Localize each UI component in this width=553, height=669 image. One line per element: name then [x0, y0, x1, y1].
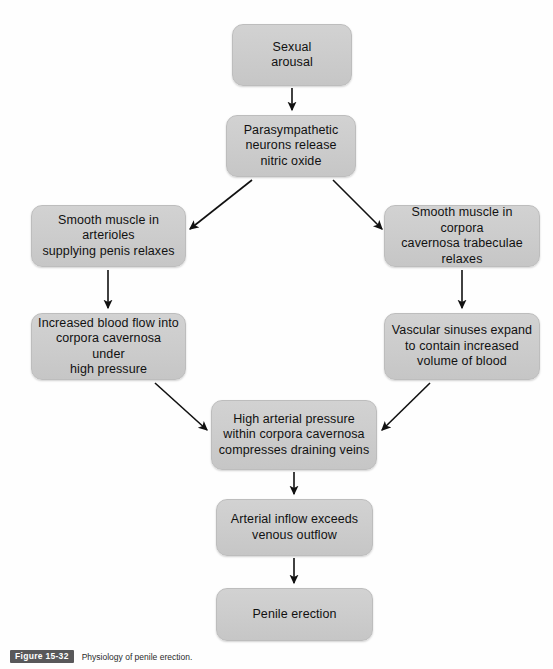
edge-parasympathetic-to-smooth-arterioles: [190, 180, 252, 229]
node-arterial-inflow[interactable]: Arterial inflow exceeds venous outflow: [216, 499, 373, 556]
node-label: Arterial inflow exceeds venous outflow: [231, 512, 358, 543]
node-label: Parasympathetic neurons release nitric o…: [244, 123, 339, 170]
figure-number-badge: Figure 15-32: [10, 650, 74, 663]
node-sexual-arousal[interactable]: Sexual arousal: [232, 24, 352, 86]
node-parasympathetic[interactable]: Parasympathetic neurons release nitric o…: [226, 115, 356, 177]
node-smooth-muscle-trabeculae[interactable]: Smooth muscle in corpora cavernosa trabe…: [384, 205, 540, 267]
node-vascular-sinuses[interactable]: Vascular sinuses expand to contain incre…: [384, 313, 540, 380]
node-label: Smooth muscle in corpora cavernosa trabe…: [391, 205, 533, 267]
figure-caption: Figure 15-32 Physiology of penile erecti…: [10, 650, 192, 663]
node-penile-erection[interactable]: Penile erection: [216, 588, 373, 641]
figure-container: Sexual arousal Parasympathetic neurons r…: [0, 0, 553, 669]
figure-caption-text: Physiology of penile erection.: [82, 652, 193, 662]
node-increased-blood-flow[interactable]: Increased blood flow into corpora cavern…: [31, 313, 186, 380]
edge-increased-flow-to-high-pressure: [155, 383, 207, 430]
node-label: Increased blood flow into corpora cavern…: [38, 316, 179, 378]
node-label: Penile erection: [252, 607, 336, 623]
node-label: Sexual arousal: [271, 40, 313, 71]
edge-parasympathetic-to-smooth-trabeculae: [333, 180, 382, 229]
node-label: High arterial pressure within corpora ca…: [219, 412, 370, 459]
node-smooth-muscle-arterioles[interactable]: Smooth muscle in arterioles supplying pe…: [31, 205, 186, 267]
node-label: Smooth muscle in arterioles supplying pe…: [42, 213, 174, 260]
node-high-arterial-pressure[interactable]: High arterial pressure within corpora ca…: [211, 400, 377, 470]
edge-vascular-sinuses-to-high-pressure: [382, 383, 430, 430]
node-label: Vascular sinuses expand to contain incre…: [392, 323, 532, 370]
